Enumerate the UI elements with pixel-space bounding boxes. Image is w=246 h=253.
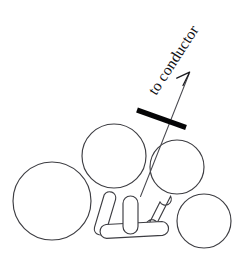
rod-center-vertical [123, 196, 138, 234]
diagram-canvas: to conductor [0, 0, 246, 253]
cable-cross-section-figure: to conductor [0, 0, 246, 253]
